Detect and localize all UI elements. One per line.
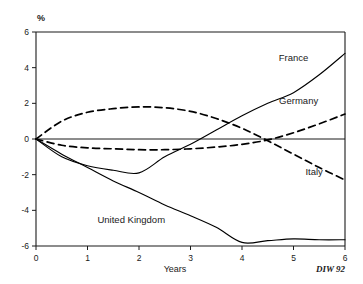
- x-axis-title: Years: [164, 264, 187, 274]
- series-line-italy: [36, 107, 345, 180]
- x-tick-label: 4: [240, 253, 245, 263]
- y-tick-label: 4: [24, 63, 29, 73]
- y-tick-label: 6: [24, 27, 29, 37]
- series-label-germany: Germany: [279, 95, 318, 106]
- series-label-united-kingdom: United Kingdom: [97, 214, 165, 225]
- y-tick-label: -2: [21, 170, 29, 180]
- y-axis-unit-label: %: [37, 13, 45, 23]
- x-tick-label: 5: [291, 253, 296, 263]
- y-tick-label: 2: [24, 98, 29, 108]
- chart-container: 6420-2-4-6 0123456 FranceGermanyItalyUni…: [0, 0, 363, 284]
- y-tick-label: -4: [21, 205, 29, 215]
- x-axis-tick-labels: 0123456: [34, 253, 348, 263]
- x-tick-label: 1: [85, 253, 90, 263]
- x-tick-label: 0: [34, 253, 39, 263]
- series-label-italy: Italy: [305, 166, 323, 177]
- y-tick-label: 0: [24, 134, 29, 144]
- series-line-united-kingdom: [36, 139, 345, 243]
- series-label-france: France: [279, 52, 309, 63]
- series-group: [36, 53, 345, 243]
- x-tick-label: 2: [137, 253, 142, 263]
- line-chart: 6420-2-4-6 0123456 FranceGermanyItalyUni…: [0, 0, 363, 284]
- x-tick-label: 3: [188, 253, 193, 263]
- y-tick-label: -6: [21, 241, 29, 251]
- y-axis-tick-labels: 6420-2-4-6: [21, 27, 29, 251]
- x-tick-label: 6: [343, 253, 348, 263]
- x-tick-group: [36, 246, 345, 250]
- source-attribution: DIW 92: [315, 264, 346, 274]
